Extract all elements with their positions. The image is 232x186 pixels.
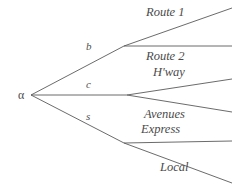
- leaf-label-hway: H'way: [153, 66, 185, 79]
- tree-edges-canvas: [0, 0, 232, 186]
- branch-key-c: c: [86, 79, 91, 90]
- leaf-label-local: Local: [160, 161, 188, 174]
- edge-c-to-hway: [127, 79, 232, 95]
- leaf-label-route-2: Route 2: [146, 50, 185, 63]
- edge-group: [31, 8, 232, 183]
- leaf-label-express: Express: [141, 123, 180, 136]
- branch-key-s: s: [86, 111, 90, 122]
- branch-key-b: b: [86, 41, 92, 52]
- edge-root-to-s: [31, 95, 124, 143]
- leaf-label-avenues: Avenues: [144, 108, 185, 121]
- edge-s-to-express: [124, 141, 232, 143]
- root-node-label-alpha: α: [18, 89, 24, 101]
- edge-root-to-b: [31, 46, 124, 95]
- decision-tree-diagram: α b c s Route 1 Route 2 H'way Avenues Ex…: [0, 0, 232, 186]
- leaf-label-route-1: Route 1: [146, 6, 185, 19]
